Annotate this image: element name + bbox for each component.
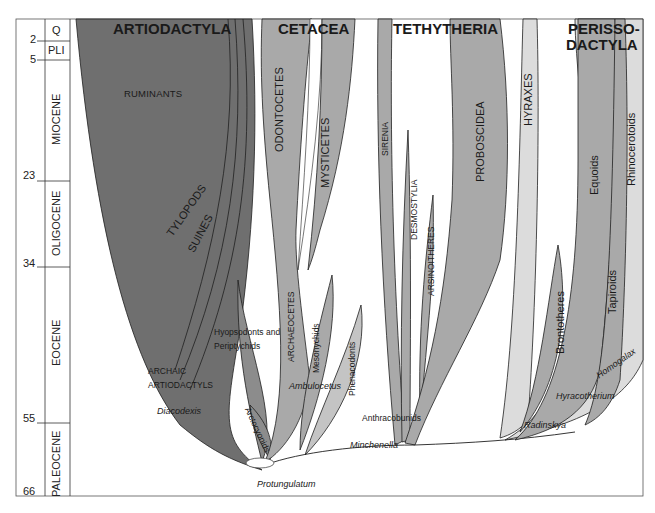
label-archaic-1: ARCHAIC bbox=[148, 367, 186, 376]
label-sirenia: SIRENIA bbox=[381, 122, 390, 156]
label-desmostylia: DESMOSTYLIA bbox=[410, 180, 419, 240]
label-hyopsodonts-2: Periptychids bbox=[214, 342, 260, 351]
label-phenacodonts: Phenacodonts bbox=[348, 342, 357, 396]
age-23: 23 bbox=[23, 170, 35, 181]
title-perissodactyla-2: DACTYLA bbox=[566, 37, 638, 52]
taxon-radinskya: Radinskya bbox=[524, 421, 566, 430]
label-anthracobunids: Anthracobunids bbox=[362, 414, 421, 423]
age-5: 5 bbox=[30, 54, 36, 65]
epoch-pli: PLI bbox=[48, 45, 65, 56]
age-34: 34 bbox=[23, 258, 35, 269]
label-mesonychids: Mesonychids bbox=[312, 323, 321, 373]
label-odontocetes: ODONTOCETES bbox=[274, 67, 285, 152]
label-archaic-2: ARTIODACTYLS bbox=[148, 381, 213, 390]
epoch-miocene: MIOCENE bbox=[51, 94, 62, 145]
taxon-hyracotherium: Hyracotherium bbox=[556, 392, 615, 401]
label-equoids: Equoids bbox=[589, 155, 600, 195]
phylogeny-diagram bbox=[0, 0, 655, 513]
epoch-q: Q bbox=[52, 25, 61, 36]
label-mysticetes: MYSTICETES bbox=[320, 118, 331, 188]
taxon-minchenella: Minchenella bbox=[350, 441, 398, 450]
title-artiodactyla: ARTIODACTYLA bbox=[113, 21, 231, 36]
title-tethytheria: TETHYTHERIA bbox=[393, 21, 498, 36]
label-arsinoitheres: ARSINOITHERES bbox=[427, 227, 436, 296]
epoch-paleocene: PALEOCENE bbox=[51, 431, 62, 497]
label-ruminants: RUMINANTS bbox=[124, 89, 182, 99]
cetacea-clade bbox=[261, 19, 312, 462]
label-rhinocerotoids: Rhinocerotoids bbox=[626, 113, 637, 186]
title-perissodactyla-1: PERISSO- bbox=[568, 21, 640, 36]
title-cetacea: CETACEA bbox=[278, 21, 349, 36]
label-proboscidea: PROBOSCIDEA bbox=[475, 101, 486, 182]
label-tapiroids: Tapiroids bbox=[607, 270, 618, 314]
taxon-ambulocetus: Ambulocetus bbox=[289, 382, 341, 391]
epoch-oligocene: OLIGOCENE bbox=[51, 191, 62, 256]
label-archaeocetes: ARCHAEOCETES bbox=[287, 292, 296, 362]
taxon-protungulatum: Protungulatum bbox=[257, 480, 316, 489]
taxon-diacodexis: Diacodexis bbox=[157, 407, 201, 416]
age-2: 2 bbox=[30, 34, 36, 45]
label-brontotheres: Brontotheres bbox=[555, 291, 566, 354]
epoch-eocene: EOCENE bbox=[51, 320, 62, 366]
label-hyraxes: HYRAXES bbox=[523, 73, 534, 126]
label-hyopsodonts-1: Hyopsodonts and bbox=[214, 328, 280, 337]
age-66: 66 bbox=[23, 486, 35, 497]
age-55: 55 bbox=[23, 413, 35, 424]
